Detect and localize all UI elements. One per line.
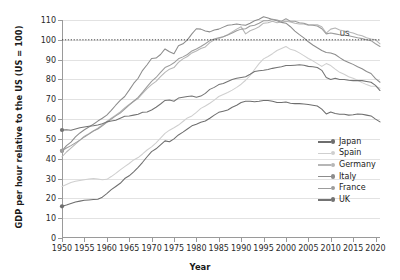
x-tick-label: 1990 — [231, 244, 251, 253]
x-tick-mark — [331, 238, 332, 242]
x-tick-label: 2000 — [276, 244, 296, 253]
x-axis-title: Year — [0, 262, 400, 272]
x-tick-label: 2010 — [321, 244, 341, 253]
x-tick-label: 1970 — [141, 244, 161, 253]
legend-label: UK — [339, 196, 350, 204]
y-axis-title: GDP per hour relative to the US (US = 10… — [14, 17, 24, 237]
legend-label: Spain — [339, 149, 361, 157]
x-tick-label: 2020 — [365, 244, 385, 253]
x-tick-mark — [129, 238, 130, 242]
series-start-marker-uk — [60, 128, 64, 132]
chart-figure: GDP per hour relative to the US (US = 10… — [0, 0, 400, 280]
x-tick-mark — [308, 238, 309, 242]
x-tick-label: 2005 — [298, 244, 318, 253]
x-tick-label: 1985 — [209, 244, 229, 253]
legend-item-spain[interactable]: Spain — [318, 148, 376, 160]
x-tick-label: 2015 — [343, 244, 363, 253]
series-line-france — [62, 19, 380, 151]
legend-swatch-icon — [318, 160, 335, 169]
legend-label: Japan — [339, 138, 361, 146]
x-tick-label: 1955 — [74, 244, 94, 253]
legend-swatch-icon — [318, 137, 335, 146]
y-tick-label: 90 — [46, 55, 56, 64]
y-tick-label: 110 — [41, 16, 56, 25]
legend-item-germany[interactable]: Germany — [318, 159, 376, 171]
x-tick-mark — [241, 238, 242, 242]
y-tick-label: 20 — [46, 194, 56, 203]
y-tick-label: 60 — [46, 115, 56, 124]
x-tick-mark — [62, 238, 63, 242]
x-tick-mark — [264, 238, 265, 242]
y-tick-label: 40 — [46, 154, 56, 163]
legend-swatch-icon — [318, 195, 335, 204]
x-tick-mark — [152, 238, 153, 242]
y-tick-label: 50 — [46, 134, 56, 143]
y-tick-label: 100 — [41, 35, 56, 44]
y-tick-label: 10 — [46, 214, 56, 223]
legend-label: France — [339, 184, 366, 192]
legend-label: Germany — [339, 161, 376, 169]
x-tick-label: 1980 — [186, 244, 206, 253]
x-tick-mark — [196, 238, 197, 242]
y-tick-label: 0 — [51, 234, 56, 243]
legend-swatch-icon — [318, 149, 335, 158]
x-tick-label: 1975 — [164, 244, 184, 253]
legend-item-uk[interactable]: UK — [318, 194, 376, 206]
legend-item-japan[interactable]: Japan — [318, 136, 376, 148]
x-tick-mark — [107, 238, 108, 242]
x-tick-mark — [376, 238, 377, 242]
us-reference-label: US — [340, 29, 350, 38]
series-start-marker-japan — [60, 204, 64, 208]
legend-swatch-icon — [318, 172, 335, 181]
x-tick-mark — [84, 238, 85, 242]
legend-item-france[interactable]: France — [318, 182, 376, 194]
x-tick-mark — [219, 238, 220, 242]
x-tick-mark — [286, 238, 287, 242]
x-tick-label: 1995 — [253, 244, 273, 253]
legend-label: Italy — [339, 173, 356, 181]
legend-swatch-icon — [318, 184, 335, 193]
series-start-marker-france — [60, 149, 64, 153]
chart-legend: JapanSpainGermanyItalyFranceUK — [318, 136, 376, 206]
legend-item-italy[interactable]: Italy — [318, 171, 376, 183]
x-tick-mark — [353, 238, 354, 242]
y-tick-label: 30 — [46, 174, 56, 183]
x-tick-label: 1960 — [97, 244, 117, 253]
y-tick-label: 70 — [46, 95, 56, 104]
x-tick-mark — [174, 238, 175, 242]
x-tick-label: 1950 — [52, 244, 72, 253]
x-tick-label: 1965 — [119, 244, 139, 253]
y-tick-label: 80 — [46, 75, 56, 84]
